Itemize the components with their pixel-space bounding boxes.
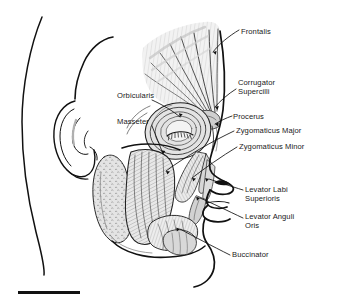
label-buccinator: Buccinator [232,250,269,259]
label-zygomaticus-minor: Zygomaticus Minor [239,142,304,151]
label-corrugator-supercilli: CorrugatorSupercilli [238,78,275,97]
label-levator-anguli-oris: Levator AnguliOris [245,212,294,231]
leader-levator-labi [209,179,243,190]
label-zygomaticus-major: Zygomaticus Major [236,126,301,135]
perioral-lower-muscles [163,230,196,255]
head-back-contour [22,17,44,275]
ear [54,101,97,179]
label-frontalis: Frontalis [241,27,271,36]
label-orbicularis: Orbicularis [117,91,154,100]
anatomy-illustration [0,0,338,307]
label-masseter: Masseter [117,117,149,126]
scalp-contour [75,37,113,99]
label-levator-labi-superioris: Levator LabiSuperioris [245,185,288,204]
scale-bar [18,291,80,294]
label-procerus: Procerus [233,112,264,121]
leader-levator-anguli [200,198,243,218]
facial-muscle-diagram: Frontalis CorrugatorSupercilli Procerus … [0,0,338,307]
